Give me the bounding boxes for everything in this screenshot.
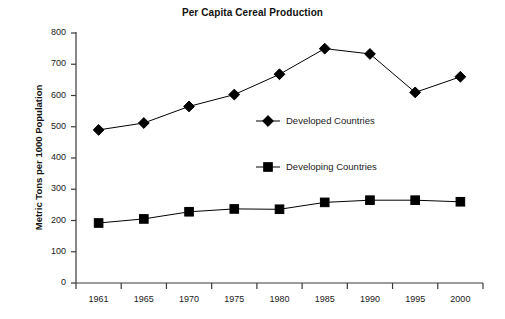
data-point-marker (185, 207, 194, 216)
plot-area (0, 0, 505, 319)
data-point-marker (319, 43, 330, 54)
data-point-marker (138, 118, 149, 129)
legend-marker-square (264, 163, 273, 172)
data-point-marker (366, 196, 375, 205)
data-series-group (93, 43, 466, 227)
legend-label: Developed Countries (286, 116, 375, 126)
data-point-marker (455, 71, 466, 82)
data-point-marker (93, 124, 104, 135)
data-point-marker (229, 89, 240, 100)
data-point-marker (184, 101, 195, 112)
data-point-marker (94, 219, 103, 228)
legend-label: Developing Countries (286, 162, 377, 172)
data-point-marker (140, 215, 149, 224)
data-point-marker (230, 205, 239, 214)
axis-lines (71, 32, 483, 289)
data-point-marker (456, 197, 465, 206)
data-point-marker (275, 205, 284, 214)
legend (256, 116, 280, 172)
legend-marker-diamond (263, 116, 274, 127)
data-point-marker (274, 69, 285, 80)
chart-container: Per Capita Cereal Production Metric Tons… (0, 0, 505, 319)
data-point-marker (411, 196, 420, 205)
data-point-marker (320, 198, 329, 207)
